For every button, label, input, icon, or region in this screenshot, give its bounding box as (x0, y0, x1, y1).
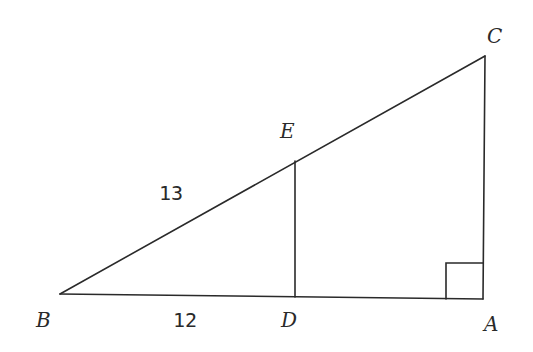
vertex-label-c: C (487, 26, 502, 46)
vertex-label-a: A (484, 314, 498, 334)
triangle-diagram: B C A E D 13 12 (0, 0, 533, 352)
vertex-label-b: B (36, 310, 51, 330)
right-angle-marker-icon (446, 263, 483, 299)
point-label-d: D (281, 310, 297, 330)
measurement-be: 13 (159, 183, 183, 203)
diagram-svg (0, 0, 533, 352)
segment-ba-base (60, 294, 483, 299)
measurement-bd: 12 (173, 310, 197, 330)
point-label-e: E (280, 121, 295, 141)
segment-bc-hypotenuse (60, 56, 485, 294)
